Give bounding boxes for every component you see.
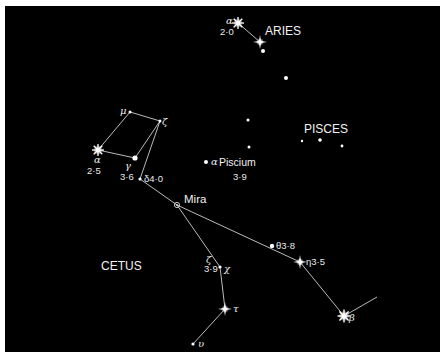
mira-label: Mira [184,193,207,205]
zeta-ceti-magnitude: 3·9 [204,263,218,274]
constellation-labels: ARIES PISCES CETUS [101,24,348,273]
mu-ceti-label: μ [120,105,127,116]
constellation-lines [98,23,377,344]
star-labels: α 2·0 α Piscium 3·9 μ ζ α 2·5 γ 3·6 δ4·0… [87,15,355,349]
star-dot-icon [318,138,322,142]
alpha-piscium-greek: α [211,156,218,167]
star-dot-icon [132,155,137,160]
alpha-piscium-name: Piscium [219,156,256,168]
star-dot-icon [247,119,250,122]
star-dot-icon [191,342,194,345]
upsilon-ceti-label: υ [198,338,204,349]
star-dot-icon [204,160,208,164]
constellation-label-aries: ARIES [265,24,301,38]
cetus-eta-beta-line [300,262,344,316]
beta-ceti-label: β [348,312,355,323]
alpha-piscium-magnitude: 3·9 [233,171,247,182]
alpha-ceti-greek: α [94,154,101,165]
cetus-mira-eta-line [177,205,300,262]
delta-ceti-label: δ4·0 [144,173,163,184]
star-chart-svg: ARIES PISCES CETUS α 2·0 α Piscium 3·9 μ… [5,6,440,352]
zeta-ceti-top-label: ζ [162,116,168,127]
star-burst-icon [232,17,244,29]
eta-ceti-label: η3·5 [306,256,325,267]
star-dot-icon [341,145,344,148]
star-dot-icon [270,244,274,248]
alpha-ceti-magnitude: 2·5 [87,165,101,176]
star-dot-icon [218,265,221,268]
star-dot-icon [301,140,303,142]
gamma-ceti-greek: γ [125,160,131,171]
alpha-arietis-greek: α [226,15,233,26]
constellation-label-cetus: CETUS [101,259,142,273]
star-dot-icon [138,177,141,180]
star-dot-icon [284,76,288,80]
theta-ceti-label: θ3·8 [276,240,295,251]
alpha-arietis-magnitude: 2·0 [220,26,234,37]
cetus-zeta-delta-line [140,121,160,179]
constellation-label-pisces: PISCES [304,122,348,136]
star-chart: ARIES PISCES CETUS α 2·0 α Piscium 3·9 μ… [5,6,440,352]
star-dot-icon [129,111,132,114]
star-cross-icon [293,255,307,269]
variable-star-icon [174,202,179,207]
tau-ceti-label: τ [233,303,239,314]
star-dot-icon [261,49,265,53]
chi-ceti-label: χ [223,263,231,274]
cetus-head-line [98,112,160,158]
gamma-ceti-magnitude: 3·6 [120,171,134,182]
star-dot-icon [248,146,251,149]
cetus-mira-zeta-line [177,205,220,267]
